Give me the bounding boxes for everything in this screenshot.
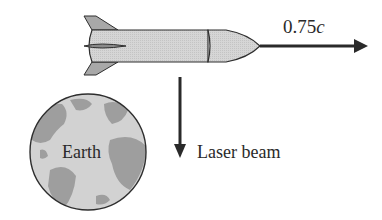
velocity-label: 0.75c (283, 17, 325, 36)
rocket-bottom-fin (84, 62, 118, 75)
rocket (84, 16, 260, 75)
arrowhead-down-icon (174, 144, 186, 158)
earth-label: Earth (62, 143, 101, 161)
rocket-nose-cone (208, 30, 260, 62)
rocket-top-fin (84, 16, 118, 30)
velocity-arrow (260, 39, 368, 53)
arrowhead-right-icon (354, 39, 368, 53)
laser-beam-arrow (174, 77, 186, 158)
velocity-unit: c (316, 16, 324, 37)
laser-beam-label: Laser beam (197, 143, 280, 161)
velocity-value: 0.75 (283, 16, 316, 37)
